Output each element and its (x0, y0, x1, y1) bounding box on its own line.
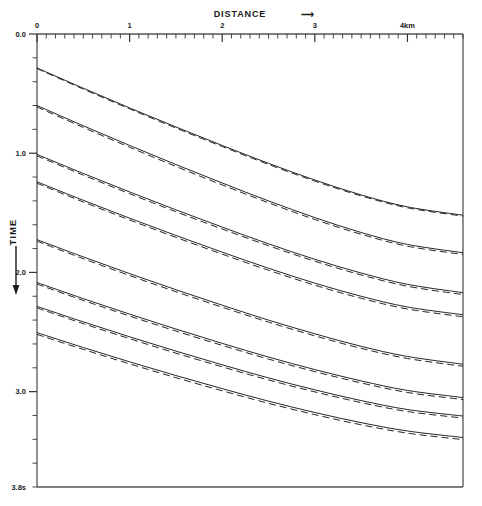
y-axis-title: TIME (8, 219, 18, 245)
travel-time-chart: DISTANCE ⟶ TIME 01234km 0.01.02.03.03.8s (0, 0, 482, 506)
y-tick-label: 1.0 (16, 149, 26, 158)
x-tick-label: 3 (313, 21, 317, 30)
chart-canvas: DISTANCE ⟶ TIME 01234km 0.01.02.03.03.8s (0, 0, 482, 506)
x-tick-label: 4km (400, 21, 415, 30)
x-axis-title: DISTANCE (214, 9, 267, 19)
y-tick-label: 3.0 (16, 387, 26, 396)
x-tick-label: 2 (220, 21, 224, 30)
y-tick-label: 0.0 (16, 30, 26, 39)
y-tick-label: 3.8s (11, 483, 26, 492)
y-tick-label: 2.0 (16, 268, 26, 277)
x-tick-label: 1 (128, 21, 132, 30)
x-axis-arrow-icon: ⟶ (301, 9, 315, 19)
x-tick-label: 0 (35, 21, 39, 30)
